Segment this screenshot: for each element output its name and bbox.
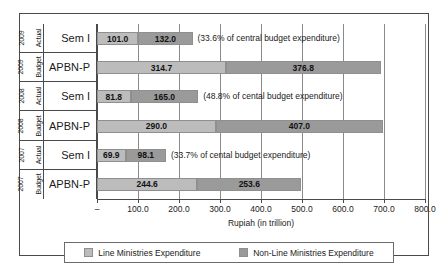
category-label: Sem I (44, 32, 96, 44)
bar-value-label: 81.8 (105, 92, 122, 102)
bar-segment-non-line-ministries: 98.1 (126, 149, 166, 162)
bar-segment-non-line-ministries: 165.0 (131, 90, 199, 103)
value-axis-tick-label: – (95, 204, 100, 214)
bar-segment-non-line-ministries: 253.6 (197, 178, 301, 191)
x-axis-title: Rupiah (in trillion) (97, 218, 425, 228)
bar-segment-non-line-ministries: 132.0 (138, 32, 192, 45)
gridline (425, 24, 426, 199)
value-axis-tick (97, 199, 98, 203)
bar-segment-line-ministries: 290.0 (97, 120, 216, 133)
bar-segment-non-line-ministries: 407.0 (216, 120, 383, 133)
category-label: APBN-P (44, 61, 96, 73)
bar-annotation: (33.7% of cental budget expenditure) (171, 150, 310, 160)
value-axis-tick-label: 200.0 (168, 204, 189, 214)
bar-value-label: 132.0 (155, 34, 176, 44)
stacked-bar: 314.7376.8 (97, 61, 381, 74)
value-axis-tick-label: 100.0 (127, 204, 148, 214)
category-label: Sem I (44, 149, 96, 161)
value-axis-tick-label: 800.0 (414, 204, 435, 214)
bar-segment-line-ministries: 101.0 (97, 32, 138, 45)
stacked-bar: 101.0132.0 (97, 32, 193, 45)
category-year: 2007 (17, 177, 25, 192)
bar-segment-line-ministries: 314.7 (97, 61, 226, 74)
bar-row: 101.0132.0(33.6% of central budget expen… (97, 24, 425, 53)
bar-segment-line-ministries: 81.8 (97, 90, 131, 103)
category-kind: Budget (35, 115, 43, 136)
category-year: 2008 (18, 89, 26, 104)
value-axis-tick-label: 500.0 (291, 204, 312, 214)
value-axis-tick-label: 300.0 (209, 204, 230, 214)
bars-layer: 101.0132.0(33.6% of central budget expen… (97, 24, 425, 199)
bar-value-label: 165.0 (154, 92, 175, 102)
category-row: 2008 Budget APBN-P (20, 111, 96, 140)
plot-area: 101.0132.0(33.6% of central budget expen… (97, 24, 425, 199)
category-row: 2007 Budget APBN-P (20, 170, 96, 199)
category-year-kind: 2007 Actual (20, 141, 44, 169)
category-row: 2008 Actual Sem I (20, 82, 96, 111)
bar-value-label: 69.9 (103, 150, 120, 160)
category-label: APBN-P (44, 178, 96, 190)
category-kind: Actual (35, 87, 43, 105)
value-axis-tick-label: 700.0 (373, 204, 394, 214)
category-year: 2009 (17, 60, 25, 75)
category-year: 2007 (18, 147, 26, 162)
legend-item-non-line-ministries: Non-Line Ministries Expenditure (239, 248, 373, 258)
bar-value-label: 244.6 (137, 179, 158, 189)
value-axis-tick-label: 400.0 (250, 204, 271, 214)
value-axis-tick (302, 199, 303, 203)
bar-value-label: 98.1 (137, 150, 154, 160)
category-year-kind: 2009 Actual (20, 24, 44, 52)
category-kind: Budget (35, 57, 43, 78)
category-label: APBN-P (44, 120, 96, 132)
bar-value-label: 314.7 (151, 63, 172, 73)
value-axis-tick-label: 600.0 (332, 204, 353, 214)
category-axis: 2009 Actual Sem I 2009 Budget APBN-P 200… (20, 24, 97, 199)
bar-value-label: 376.8 (293, 63, 314, 73)
category-year-kind: 2008 Budget (20, 111, 44, 139)
bar-row: 290.0407.0 (97, 112, 425, 141)
category-year-kind: 2007 Budget (20, 170, 44, 199)
bar-segment-line-ministries: 244.6 (97, 178, 197, 191)
value-axis-tick (425, 199, 426, 203)
stacked-bar: 290.0407.0 (97, 120, 383, 133)
value-axis-tick (179, 199, 180, 203)
category-row: 2009 Actual Sem I (20, 24, 96, 53)
value-axis-tick (384, 199, 385, 203)
bar-value-label: 101.0 (107, 34, 128, 44)
legend-swatch-icon (84, 248, 93, 257)
bar-value-label: 407.0 (289, 121, 310, 131)
legend-label: Line Ministries Expenditure (98, 248, 200, 258)
category-kind: Actual (35, 146, 43, 164)
bar-row: 81.8165.0(48.8% of cental budget expendi… (97, 82, 425, 111)
category-kind: Budget (35, 174, 43, 195)
category-kind: Actual (35, 29, 43, 47)
bar-segment-non-line-ministries: 376.8 (226, 61, 380, 74)
bar-row: 314.7376.8 (97, 53, 425, 82)
stacked-bar: 81.8165.0 (97, 90, 198, 103)
bar-annotation: (33.6% of central budget expenditure) (198, 33, 340, 43)
bar-segment-line-ministries: 69.9 (97, 149, 126, 162)
bar-value-label: 253.6 (239, 179, 260, 189)
category-label: Sem I (44, 90, 96, 102)
bar-row: 69.998.1(33.7% of cental budget expendit… (97, 141, 425, 170)
value-axis-tick (220, 199, 221, 203)
legend-label: Non-Line Ministries Expenditure (253, 248, 373, 258)
value-axis: –100.0200.0300.0400.0500.0600.0700.0800.… (97, 199, 425, 219)
legend-swatch-icon (239, 248, 248, 257)
bar-annotation: (48.8% of cental budget expenditure) (203, 91, 342, 101)
stacked-bar: 69.998.1 (97, 149, 166, 162)
bar-row: 244.6253.6 (97, 170, 425, 199)
value-axis-tick (138, 199, 139, 203)
category-year: 2009 (18, 31, 26, 46)
category-row: 2007 Actual Sem I (20, 141, 96, 170)
value-axis-tick (343, 199, 344, 203)
chart-root: 2009 Actual Sem I 2009 Budget APBN-P 200… (0, 0, 448, 272)
stacked-bar: 244.6253.6 (97, 178, 301, 191)
category-year-kind: 2008 Actual (20, 82, 44, 110)
bar-value-label: 290.0 (146, 121, 167, 131)
category-year-kind: 2009 Budget (20, 53, 44, 81)
legend-item-line-ministries: Line Ministries Expenditure (84, 248, 200, 258)
value-axis-tick (261, 199, 262, 203)
category-row: 2009 Budget APBN-P (20, 53, 96, 82)
chart-figure-frame: 2009 Actual Sem I 2009 Budget APBN-P 200… (19, 13, 429, 256)
